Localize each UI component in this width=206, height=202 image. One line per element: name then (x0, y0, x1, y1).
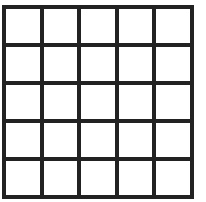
grid-cell (44, 161, 78, 195)
grid-cell (6, 85, 40, 119)
grid-cell (44, 85, 78, 119)
grid-cell (6, 123, 40, 157)
grid-cell (156, 123, 190, 157)
grid-cell (44, 9, 78, 43)
grid-cell (119, 47, 153, 81)
grid-cell (156, 161, 190, 195)
grid-cell (6, 9, 40, 43)
grid-cell (6, 47, 40, 81)
grid-cell (6, 161, 40, 195)
grid-cell (44, 123, 78, 157)
empty-grid (2, 5, 194, 199)
grid-cell (119, 123, 153, 157)
grid-cell (81, 9, 115, 43)
grid-cell (156, 47, 190, 81)
grid-cell (81, 123, 115, 157)
grid-cell (156, 85, 190, 119)
grid-cell (44, 47, 78, 81)
grid-cell (81, 85, 115, 119)
grid-cell (156, 9, 190, 43)
grid-cell (81, 47, 115, 81)
grid-cell (81, 161, 115, 195)
grid-cell (119, 85, 153, 119)
grid-cell (119, 9, 153, 43)
grid-cell (119, 161, 153, 195)
